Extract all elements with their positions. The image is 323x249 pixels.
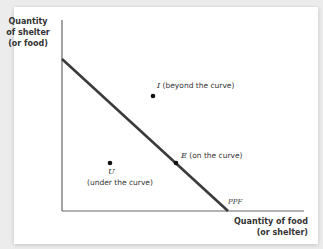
point-u-letter: U <box>108 167 115 176</box>
point-u <box>108 161 113 166</box>
point-e <box>174 161 179 166</box>
y-axis-label-line: (or food) <box>0 38 56 49</box>
y-axis-label-line: of shelter <box>0 27 56 38</box>
point-u-text: (under the curve) <box>87 178 153 187</box>
point-i-label: I (beyond the curve) <box>157 81 234 90</box>
y-axis-label: Quantity of shelter (or food) <box>0 16 56 49</box>
y-axis-label-line: Quantity <box>0 16 56 27</box>
point-i <box>151 94 156 99</box>
x-axis-label-line: (or shelter) <box>230 227 308 238</box>
point-e-text: (on the curve) <box>187 151 243 160</box>
x-axis-label: Quantity of food (or shelter) <box>230 216 308 238</box>
point-i-text: (beyond the curve) <box>160 81 234 90</box>
x-axis-label-line: Quantity of food <box>230 216 308 227</box>
point-e-label: E (on the curve) <box>181 151 243 160</box>
ppf-label: PPF <box>228 198 242 206</box>
